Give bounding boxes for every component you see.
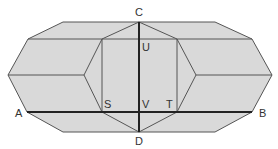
label-S: S — [104, 98, 111, 110]
label-V: V — [142, 98, 150, 110]
label-U: U — [142, 41, 150, 53]
label-C: C — [135, 6, 143, 18]
label-D: D — [135, 135, 143, 147]
label-A: A — [15, 107, 23, 119]
label-B: B — [259, 107, 266, 119]
label-T: T — [166, 98, 173, 110]
geometry-diagram: C U A S V T B D — [0, 0, 278, 149]
